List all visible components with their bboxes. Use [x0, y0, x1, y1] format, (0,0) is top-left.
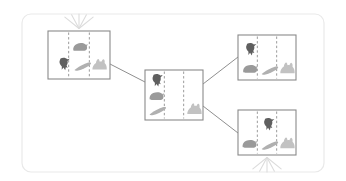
state-node-center[interactable] — [145, 70, 203, 120]
state-node-top-right[interactable] — [238, 35, 296, 80]
diagram-stage — [0, 0, 346, 181]
node-frame[interactable] — [48, 31, 110, 79]
diagram-canvas — [0, 0, 346, 181]
state-node-bottom-right[interactable] — [238, 110, 296, 155]
state-node-top-left[interactable] — [48, 31, 110, 79]
